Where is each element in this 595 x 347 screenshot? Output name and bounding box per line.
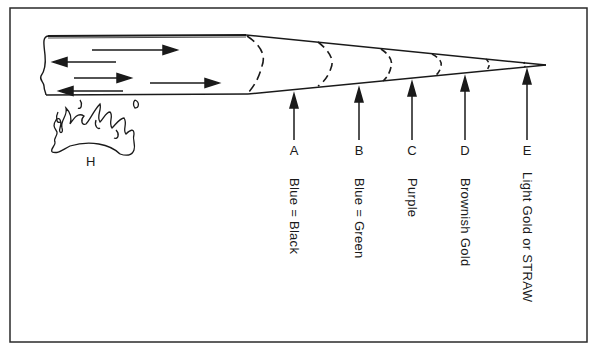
heat-source-label: H: [86, 154, 95, 169]
diagram-frame: [10, 8, 587, 342]
zone-color-a: Blue = Black: [287, 178, 302, 254]
zone-letter-a: A: [290, 143, 299, 158]
tempering-colors-diagram: H A B C D E Blue = Black Blue = Green Pu…: [0, 0, 595, 347]
zone-pointer-arrows: [290, 70, 531, 140]
zone-color-e: Light Gold or STRAW: [520, 172, 535, 302]
rod-taper: [246, 35, 546, 94]
zone-letter-e: E: [523, 143, 532, 158]
rod-body: [41, 35, 248, 95]
flame-icon: [52, 100, 139, 155]
heat-flow-arrows: [53, 46, 219, 96]
zone-letter-d: D: [460, 143, 469, 158]
zone-boundaries: [247, 36, 525, 93]
zone-color-d: Brownish Gold: [458, 178, 473, 266]
diagram-canvas: [0, 0, 595, 347]
zone-letter-b: B: [355, 143, 364, 158]
zone-color-c: Purple: [405, 178, 420, 217]
zone-color-b: Blue = Green: [352, 178, 367, 259]
zone-letter-c: C: [407, 143, 416, 158]
